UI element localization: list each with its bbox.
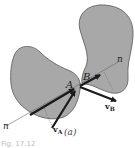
figure-caption: Fig. 17.12 <box>1 140 35 148</box>
velocity-a-label: vA <box>53 125 62 135</box>
point-b-label: B <box>83 72 90 82</box>
normal-label-end: n <box>117 55 123 64</box>
point-a-label: A <box>66 80 73 90</box>
normal-label-start: n <box>3 122 9 131</box>
impact-diagram <box>0 0 135 148</box>
velocity-b-label: vB <box>105 102 115 112</box>
panel-label: (a) <box>64 128 76 137</box>
